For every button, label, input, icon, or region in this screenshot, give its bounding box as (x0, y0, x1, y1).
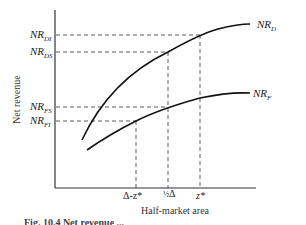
label-curve-nr-d: NRD (257, 19, 276, 35)
curve-nr-d (82, 24, 250, 140)
tick-delta-minus-z: Δ-z* (123, 191, 142, 201)
label-nr-fi: NRFI (30, 115, 51, 131)
curve-nr-f (87, 93, 250, 150)
x-axis-label: Half-market area (141, 206, 209, 216)
y-axis-label: Net revenue (12, 75, 22, 124)
tick-z-star: z* (196, 191, 205, 201)
label-nr-ds: NRDS (30, 46, 53, 62)
label-curve-nr-f: NRF (253, 88, 271, 104)
label-nr-di: NRDI (30, 29, 51, 45)
figure-caption: Fig. 10.4 Net revenue ... (24, 218, 124, 225)
tick-half-delta: ½Δ (163, 189, 175, 200)
